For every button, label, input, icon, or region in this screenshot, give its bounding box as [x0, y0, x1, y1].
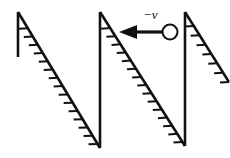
- tooth-3-hatch-tick: [220, 82, 229, 83]
- tooth-2-hatch-tick: [112, 44, 121, 45]
- tooth-1: [18, 12, 100, 148]
- tooth-2-hatch-tick: [127, 69, 136, 70]
- tooth-2-hatch-tick: [101, 28, 110, 29]
- velocity-vector-group: [119, 25, 178, 40]
- tooth-2-hatch-tick: [122, 61, 131, 62]
- tooth-3-hatch-tick: [197, 45, 206, 46]
- tooth-2-hatch-tick: [143, 93, 152, 94]
- tooth-2-hatch-tick: [148, 101, 157, 102]
- tooth-2-hatch-tick: [117, 52, 126, 53]
- tooth-2-hatch-tick: [153, 109, 162, 110]
- tooth-3: [185, 12, 229, 146]
- tooth-2-hatch-tick: [173, 142, 182, 143]
- tooth-3-hatch-tick: [191, 35, 200, 36]
- tooth-3-diagonal-line: [185, 12, 229, 82]
- velocity-vector-arrowhead: [119, 25, 137, 39]
- diagram-canvas: −v: [0, 0, 230, 158]
- tooth-2-hatch-tick: [163, 126, 172, 127]
- body-circle: [163, 25, 178, 40]
- tooth-2-hatch-tick: [132, 77, 141, 78]
- tooth-3-hatch-tick: [202, 54, 211, 55]
- tooth-3-hatch-tick: [208, 63, 217, 64]
- velocity-vector-label: −v: [143, 8, 158, 21]
- tooth-2-hatch-tick: [168, 134, 177, 135]
- tooth-3-hatch-tick: [185, 26, 194, 27]
- tooth-2-hatch-tick: [158, 118, 167, 119]
- tooth-2-hatch-tick: [106, 36, 115, 37]
- tooth-1-diagonal-line: [18, 12, 100, 148]
- tooth-3-hatch-tick: [214, 73, 223, 74]
- tooth-2-hatch-tick: [137, 85, 146, 86]
- sawtooth-surface-diagram: [0, 0, 230, 158]
